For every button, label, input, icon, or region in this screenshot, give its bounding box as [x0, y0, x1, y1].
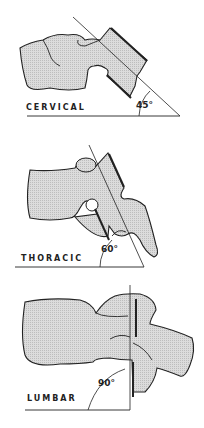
cervical-angle: 45°	[136, 100, 153, 110]
lumbar-label: LUMBAR	[27, 394, 77, 403]
lumbar-angle: 90°	[98, 378, 115, 388]
thoracic-angle: 60°	[101, 244, 118, 254]
thoracic-vertebra	[15, 145, 158, 267]
cervical-label: CERVICAL	[26, 103, 86, 112]
lumbar-vertebra	[23, 285, 194, 410]
vertebrae-diagram	[0, 0, 204, 428]
thoracic-label: THORACIC	[21, 254, 83, 263]
cervical-vertebra	[20, 17, 180, 116]
